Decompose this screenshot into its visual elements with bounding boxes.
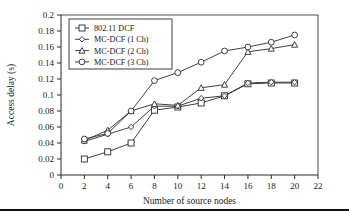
- x-tick-label: 4: [105, 181, 110, 191]
- y-tick-label: 0.18: [38, 26, 54, 36]
- legend-label-1: MC-DCF (1 Ch): [94, 35, 149, 44]
- marker-circle: [175, 70, 181, 76]
- x-tick-label: 22: [314, 181, 323, 191]
- y-axis-title: Access delay (s): [6, 64, 17, 126]
- marker-triangle: [292, 42, 298, 48]
- x-tick-label: 0: [59, 181, 64, 191]
- marker-circle: [105, 131, 111, 137]
- y-tick-label: 0: [50, 170, 55, 180]
- figure-container: 024681012141618202200.020.040.060.080.10…: [0, 0, 349, 219]
- marker-square: [79, 25, 85, 31]
- legend-label-3: MC-DCF (3 Ch): [94, 58, 149, 67]
- marker-triangle: [222, 82, 228, 88]
- y-tick-label: 0.14: [38, 58, 54, 68]
- y-tick-label: 0.1: [43, 90, 54, 100]
- marker-circle: [245, 44, 251, 50]
- x-tick-label: 18: [267, 181, 277, 191]
- x-tick-label: 16: [243, 181, 253, 191]
- x-axis-title: Number of source nodes: [143, 196, 236, 206]
- marker-square: [105, 149, 111, 155]
- legend-label-0: 802.11 DCF: [94, 24, 135, 33]
- series-line-0: [84, 83, 294, 159]
- y-tick-label: 0.06: [38, 122, 54, 132]
- marker-square: [128, 140, 134, 146]
- x-tick-label: 20: [290, 181, 300, 191]
- series-line-1: [84, 82, 294, 141]
- legend-label-2: MC-DCF (2 Ch): [94, 47, 149, 56]
- y-tick-label: 0.16: [38, 42, 54, 52]
- marker-circle: [128, 108, 134, 114]
- marker-square: [81, 156, 87, 162]
- y-tick-label: 0.12: [38, 74, 54, 84]
- marker-circle: [268, 39, 274, 45]
- marker-circle: [198, 59, 204, 65]
- marker-circle: [152, 78, 158, 84]
- x-tick-label: 8: [152, 181, 157, 191]
- y-tick-label: 0.2: [43, 10, 54, 20]
- x-tick-label: 6: [129, 181, 134, 191]
- y-tick-label: 0.02: [38, 154, 54, 164]
- x-tick-label: 2: [82, 181, 87, 191]
- marker-circle: [292, 32, 298, 38]
- marker-circle: [79, 59, 85, 65]
- x-tick-label: 12: [197, 181, 206, 191]
- x-tick-label: 10: [173, 181, 183, 191]
- x-tick-label: 14: [220, 181, 230, 191]
- marker-circle: [81, 136, 87, 142]
- line-chart: 024681012141618202200.020.040.060.080.10…: [0, 0, 349, 219]
- y-tick-label: 0.08: [38, 106, 54, 116]
- figure-bottom-rule: [0, 209, 349, 211]
- y-tick-label: 0.04: [38, 138, 54, 148]
- marker-circle: [222, 48, 228, 54]
